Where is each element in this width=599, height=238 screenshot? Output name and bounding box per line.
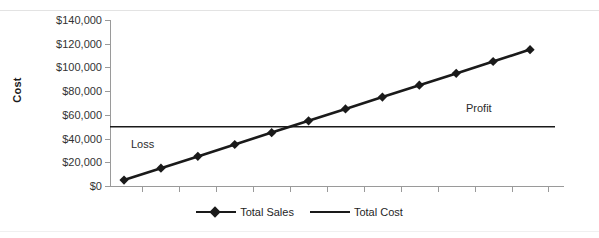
data-point-marker — [489, 57, 498, 66]
legend-label: Total Cost — [354, 206, 403, 218]
line-marker-icon — [310, 206, 350, 218]
data-point-marker — [267, 128, 276, 137]
data-point-marker — [341, 104, 350, 113]
data-point-marker — [415, 81, 424, 90]
annotation-loss: Loss — [131, 138, 154, 150]
data-point-marker — [156, 164, 165, 173]
data-point-marker — [304, 116, 313, 125]
line-diamond-marker-icon — [196, 206, 236, 218]
legend-label: Total Sales — [240, 206, 294, 218]
plot-area — [0, 0, 599, 238]
breakeven-chart: Cost $140,000 $120,000 $100,000 $80,000 … — [0, 0, 599, 238]
annotation-profit: Profit — [466, 102, 492, 114]
chart-legend: Total Sales Total Cost — [0, 206, 599, 218]
data-point-marker — [119, 175, 128, 184]
data-point-marker — [193, 152, 202, 161]
data-point-marker — [452, 69, 461, 78]
data-point-marker — [378, 92, 387, 101]
series-total-sales-line — [124, 50, 530, 181]
legend-item-total-cost[interactable]: Total Cost — [310, 206, 403, 218]
data-point-marker — [230, 140, 239, 149]
data-point-marker — [525, 45, 534, 54]
legend-item-total-sales[interactable]: Total Sales — [196, 206, 294, 218]
